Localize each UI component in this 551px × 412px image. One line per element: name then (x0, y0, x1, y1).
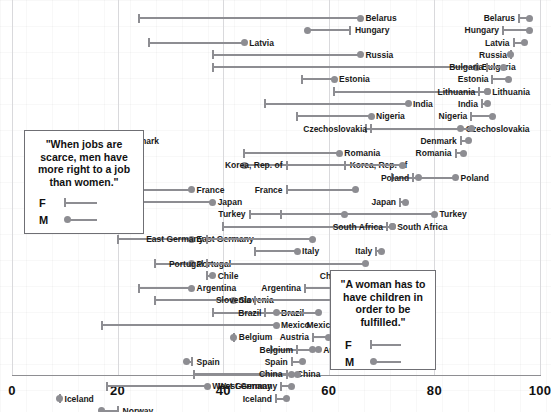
data-row: Italy (0, 245, 551, 257)
f-marker (264, 308, 266, 317)
country-label: China (259, 368, 283, 380)
country-label: Bulgaria (449, 61, 483, 73)
data-row: Mexico (0, 319, 551, 331)
m-marker (484, 88, 491, 95)
country-label: Portugal (169, 258, 203, 270)
country-label: Argentina (261, 282, 301, 294)
f-marker (206, 259, 208, 268)
legend-box-jobs: "When jobs are scarce, men have more rig… (24, 130, 144, 234)
f-marker (275, 394, 277, 403)
data-row: Belgium (0, 344, 551, 356)
connector-line (265, 312, 318, 314)
m-marker (507, 51, 514, 58)
data-row: Brazil (0, 307, 551, 319)
m-marker (283, 395, 290, 402)
m-marker (484, 100, 491, 107)
m-marker (352, 186, 359, 193)
f-marker (296, 345, 298, 354)
country-label: Turkey (218, 208, 245, 220)
m-marker (489, 113, 496, 120)
f-marker (513, 38, 515, 47)
data-row: Argentina (0, 282, 551, 294)
f-marker (286, 161, 288, 170)
f-marker (486, 63, 488, 72)
country-label: Belgium (260, 344, 294, 356)
data-row: West Germany (0, 380, 551, 392)
f-marker (412, 173, 414, 182)
data-row: China (0, 368, 551, 380)
f-marker (455, 149, 457, 158)
data-row: Portugal (0, 258, 551, 270)
m-marker (468, 125, 475, 132)
connector-line (371, 128, 471, 130)
m-marker (288, 383, 295, 390)
data-row: Hungary (0, 24, 551, 36)
chart-canvas: 020406080100 BelarusHungaryLatviaRussiaB… (0, 0, 551, 412)
m-marker (341, 211, 348, 218)
connector-line (207, 238, 313, 240)
m-marker (378, 248, 385, 255)
data-row: Lithuania (0, 86, 551, 98)
country-label: Lithuania (437, 86, 475, 98)
f-marker (491, 75, 493, 84)
data-row: Austria (0, 331, 551, 343)
country-label: Slovenia (216, 294, 251, 306)
f-marker (478, 87, 480, 96)
country-label: Belarus (484, 12, 515, 24)
data-row: Iceland (0, 393, 551, 405)
legend-jobs-f-label: F (39, 197, 61, 209)
legend-jobs-question: "When jobs are scarce, men have more rig… (25, 131, 143, 188)
legend-jobs-m-label: M (39, 214, 61, 226)
legend-jobs-m-row: M (25, 211, 143, 228)
data-row: Slovenia (0, 294, 551, 306)
legend-children-question: "A woman has to have children in order t… (331, 271, 435, 328)
f-marker (460, 136, 462, 145)
f-marker (117, 406, 119, 412)
m-marker (315, 309, 322, 316)
data-row: Estonia (0, 73, 551, 85)
f-marker (518, 14, 520, 23)
legend-box-children: "A woman has to have children in order t… (330, 270, 436, 370)
m-marker-icon (367, 356, 413, 368)
country-label: Italy (355, 245, 372, 257)
country-label: Iceland (243, 393, 272, 405)
m-marker (526, 15, 533, 22)
data-row: Belarus (0, 12, 551, 24)
f-marker (399, 198, 401, 207)
m-marker (526, 27, 533, 34)
country-label: Romania (416, 147, 452, 159)
m-marker (309, 236, 316, 243)
m-marker (299, 358, 306, 365)
f-marker (249, 210, 251, 219)
legend-children-m-label: M (345, 356, 367, 368)
connector-line (250, 213, 345, 215)
f-marker (470, 112, 472, 121)
country-label: Estonia (458, 73, 489, 85)
data-row: Chile (0, 270, 551, 282)
m-marker (399, 162, 406, 169)
country-label: East Germany (146, 233, 203, 245)
country-label: Austria (280, 331, 309, 343)
m-marker (500, 64, 507, 71)
legend-children-f-row: F (331, 336, 435, 353)
f-marker-icon (367, 339, 413, 351)
f-marker (312, 333, 314, 342)
m-marker (521, 39, 528, 46)
legend-children-m-row: M (331, 353, 435, 370)
connector-line (207, 263, 365, 265)
country-label: West Germany (218, 380, 277, 392)
f-marker (386, 222, 388, 231)
f-marker (502, 26, 504, 35)
m-marker-icon (61, 214, 107, 226)
f-marker (286, 185, 288, 194)
country-label: Korea, Rep. of (225, 159, 283, 171)
country-label: Latvia (485, 37, 510, 49)
country-label: Spain (265, 356, 288, 368)
country-label: Nigeria (439, 110, 468, 122)
m-marker (309, 346, 316, 353)
m-marker (465, 137, 472, 144)
f-marker (286, 370, 288, 379)
data-row: Spain (0, 356, 551, 368)
m-marker (415, 174, 422, 181)
f-marker-icon (61, 197, 107, 209)
